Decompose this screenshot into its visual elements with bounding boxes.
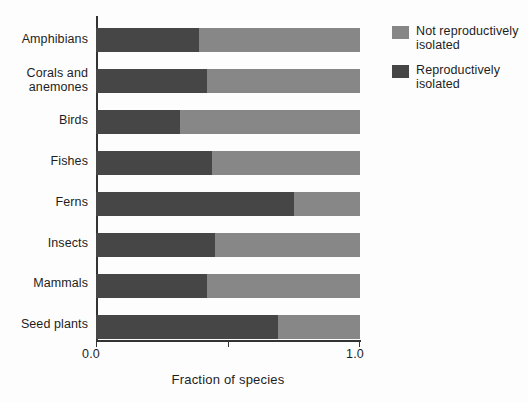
category-label-line1: Corals and (27, 66, 88, 80)
bar-row (96, 233, 360, 257)
x-axis-tick-mid (228, 341, 229, 347)
bar-row (96, 192, 360, 216)
legend-label-isolated: Reproductively isolated (416, 63, 524, 91)
category-label-line2: anemones (29, 80, 88, 94)
category-label-line1: Ferns (56, 195, 88, 209)
category-label-line1: Amphibians (22, 32, 88, 46)
bar-segment (294, 192, 360, 216)
legend-swatch-icon-isolated (392, 65, 409, 78)
category-label-ferns: Ferns (2, 196, 88, 210)
category-label-insects: Insects (2, 237, 88, 251)
bar-segment (96, 151, 212, 175)
category-label-mammals: Mammals (2, 277, 88, 291)
legend-label-line1: Not reproductively (416, 24, 519, 38)
bar-segment (207, 274, 360, 298)
bar-segment (212, 151, 360, 175)
x-axis-title: Fraction of species (0, 372, 456, 387)
bar-row (96, 69, 360, 93)
legend-label-line2: isolated (416, 38, 460, 52)
bar-segment (180, 110, 360, 134)
legend-swatch-icon-not-isolated (392, 26, 409, 39)
category-label-line1: Fishes (51, 154, 88, 168)
bar-row (96, 151, 360, 175)
category-label-corals-and-anemones: Corals and anemones (2, 67, 88, 94)
bar-row (96, 315, 360, 339)
legend-label-line1: Reproductively (416, 63, 500, 77)
bar-row (96, 274, 360, 298)
bar-segment (96, 69, 207, 93)
legend-item-not-reproductively-isolated: Not reproductively isolated (392, 24, 524, 54)
bar-segment (207, 69, 360, 93)
category-label-line1: Insects (48, 236, 88, 250)
bar-segment (96, 110, 180, 134)
category-label-seed-plants: Seed plants (2, 318, 88, 332)
bar-row (96, 28, 360, 52)
legend-item-reproductively-isolated: Reproductively isolated (392, 63, 524, 93)
x-axis-tick-label-min: 0.0 (82, 347, 100, 361)
category-label-amphibians: Amphibians (2, 33, 88, 47)
legend-label-not-isolated: Not reproductively isolated (416, 24, 524, 52)
bar-segment (96, 192, 294, 216)
bar-segment (199, 28, 360, 52)
x-axis-tick-label-max: 1.0 (346, 347, 364, 361)
bar-segment (96, 315, 278, 339)
bar-segment (96, 274, 207, 298)
category-label-line1: Seed plants (21, 317, 88, 331)
bar-row (96, 110, 360, 134)
bar-segment (96, 28, 199, 52)
stacked-bar-chart-figure: 0.0 1.0 Fraction of species Amphibians C… (0, 0, 528, 402)
plot-area (96, 16, 360, 340)
bar-segment (215, 233, 360, 257)
legend-label-line2: isolated (416, 77, 460, 91)
category-label-birds: Birds (2, 114, 88, 128)
legend: Not reproductively isolated Reproductive… (392, 24, 524, 102)
category-label-line1: Mammals (33, 276, 88, 290)
category-label-line1: Birds (59, 113, 88, 127)
bar-segment (278, 315, 360, 339)
bar-segment (96, 233, 215, 257)
category-label-fishes: Fishes (2, 155, 88, 169)
